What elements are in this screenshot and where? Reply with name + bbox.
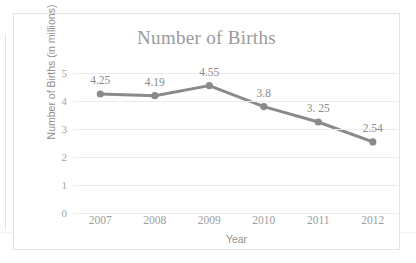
data-point-label: 3. 25 bbox=[307, 102, 330, 114]
y-axis-tick-label: 4 bbox=[43, 95, 67, 107]
x-axis-tick-label: 2008 bbox=[143, 214, 166, 226]
x-axis-tick-label: 2009 bbox=[198, 214, 221, 226]
gridline bbox=[73, 129, 400, 130]
x-axis-tick-label: 2011 bbox=[307, 214, 330, 226]
x-axis-tick-label: 2010 bbox=[252, 214, 275, 226]
data-point-marker bbox=[97, 90, 104, 97]
gridline bbox=[73, 101, 400, 102]
gridline bbox=[73, 185, 400, 186]
y-axis-tick-label: 2 bbox=[43, 151, 67, 163]
data-point-label: 4.55 bbox=[199, 66, 219, 78]
page-scan-edge-line bbox=[5, 34, 6, 230]
x-axis-tick-label: 2007 bbox=[89, 214, 112, 226]
y-axis-tick-label: 1 bbox=[43, 179, 67, 191]
data-point-label: 4.25 bbox=[90, 74, 110, 86]
y-axis-tick-label: 0 bbox=[43, 207, 67, 219]
y-axis-tick-label: 3 bbox=[43, 123, 67, 135]
gridline bbox=[73, 73, 400, 74]
series-line bbox=[100, 86, 373, 142]
data-point-marker bbox=[206, 82, 213, 89]
plot-area: 0123454.254.194.553.83. 252.54 bbox=[73, 73, 400, 213]
plot-region: 0123454.254.194.553.83. 252.54 bbox=[73, 60, 400, 213]
chart-title: Number of Births bbox=[14, 27, 399, 49]
data-point-marker bbox=[369, 138, 376, 145]
data-point-label: 3.8 bbox=[257, 87, 271, 99]
gridline bbox=[73, 157, 400, 158]
data-point-label: 4.19 bbox=[145, 76, 165, 88]
data-point-marker bbox=[315, 118, 322, 125]
data-point-label: 2.54 bbox=[363, 122, 383, 134]
chart-frame: Number of Births Number of Births (in mi… bbox=[13, 13, 400, 250]
y-axis-tick-label: 5 bbox=[43, 67, 67, 79]
data-point-marker bbox=[151, 92, 158, 99]
x-axis-title: Year bbox=[73, 233, 400, 245]
x-axis-tick-label: 2012 bbox=[361, 214, 384, 226]
data-point-marker bbox=[260, 103, 267, 110]
x-axis-tick-labels: 200720082009201020112012 bbox=[73, 214, 400, 230]
series-line-chart bbox=[73, 73, 400, 213]
